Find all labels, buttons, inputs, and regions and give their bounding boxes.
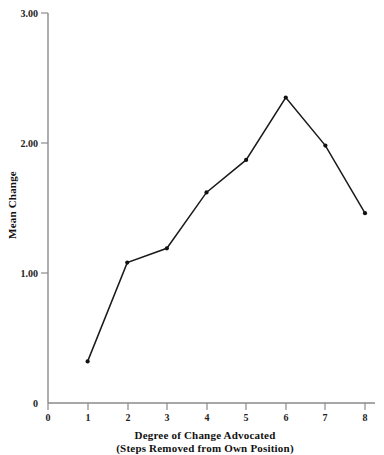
chart-background: [0, 0, 384, 455]
x-axis-subtitle: (Steps Removed from Own Position): [116, 442, 294, 455]
y-tick-label-0: 0: [33, 398, 38, 409]
x-tick-label-3: 3: [165, 412, 170, 423]
x-tick-label-7: 7: [323, 412, 328, 423]
line-chart: 3.00 2.00 1.00 0 0 1 2 3 4 5 6 7 8 Degre…: [0, 0, 384, 455]
x-tick-label-5: 5: [244, 412, 249, 423]
x-tick-label-2: 2: [126, 412, 131, 423]
x-tick-label-0: 0: [46, 412, 51, 423]
x-tick-label-6: 6: [284, 412, 289, 423]
y-tick-label-2: 2.00: [21, 138, 39, 149]
data-point: [323, 144, 327, 148]
data-point: [125, 261, 129, 265]
chart-container: 3.00 2.00 1.00 0 0 1 2 3 4 5 6 7 8 Degre…: [0, 0, 384, 455]
data-point: [204, 190, 208, 194]
y-tick-label-1: 1.00: [21, 268, 39, 279]
y-axis-title: Mean Change: [6, 171, 18, 239]
data-point: [363, 211, 367, 215]
data-point: [284, 95, 288, 99]
data-point: [244, 158, 248, 162]
y-tick-label-3: 3.00: [21, 8, 39, 19]
x-tick-label-8: 8: [363, 412, 368, 423]
x-tick-label-1: 1: [86, 412, 91, 423]
x-tick-label-4: 4: [205, 412, 210, 423]
x-axis-title: Degree of Change Advocated: [135, 429, 276, 441]
data-point: [86, 359, 90, 363]
data-point: [165, 246, 169, 250]
